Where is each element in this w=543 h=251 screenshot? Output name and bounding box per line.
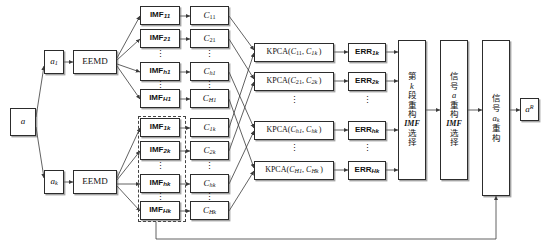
err-box-2k: ERR2k — [348, 72, 386, 91]
kpca-box-4: KPCA(CH1, CHk ) — [254, 161, 334, 180]
stage-box-signal-a-imf-selection: 信 号 a 重 构 IMF 选 择 — [440, 40, 468, 180]
c-h1-label: Ch1 — [203, 67, 215, 77]
c-box-2k: C2k — [190, 141, 229, 160]
err-ellipsis-1: ⋮ — [348, 97, 386, 104]
c-top-ellipsis-1: ⋮ — [190, 51, 229, 58]
eemd-box-top: EEMD — [73, 50, 117, 74]
imf-11-label: IMF11 — [150, 11, 170, 20]
err-box-1k: ERR1k — [348, 43, 386, 62]
stage-box-kth-segment-imf-selection: 第 k 段 重 构 IMF 选 择 — [398, 40, 426, 180]
err-1k-label: ERR1k — [355, 48, 379, 57]
imf-box-Hk: IMFHk — [140, 201, 180, 220]
output-signal-label: aR — [525, 104, 533, 114]
kpca-box-2: KPCA(C21, C2k ) — [254, 72, 334, 91]
stage-box-signal-ak-reconstruction: 信 号 ak 重 构 — [482, 40, 510, 196]
kpca-ellipsis: ⋮ — [254, 97, 334, 104]
imf-box-11: IMF11 — [140, 6, 180, 25]
stage1-label: 第 k 段 重 构 IMF 选 择 — [404, 72, 420, 148]
kpca-box-1: KPCA(C11, C1k ) — [254, 43, 334, 62]
imf-1k-label: IMF1k — [150, 123, 171, 132]
stage3-label: 信 号 ak 重 构 — [492, 93, 501, 143]
c-2k-label: C2k — [204, 146, 216, 156]
stage3-a: ak — [493, 113, 500, 123]
output-signal-box: aR — [520, 98, 539, 121]
c-H1-label: CH1 — [203, 94, 217, 104]
err-box-hk: ERRhk — [348, 121, 386, 140]
imf-box-21: IMF21 — [140, 29, 180, 48]
eemd-box-bottom: EEMD — [73, 170, 117, 194]
imf-hk-label: IMFhk — [149, 179, 170, 188]
c-box-21: C21 — [190, 29, 229, 48]
c-Hk-label: CHk — [203, 206, 216, 216]
imf-box-2k: IMF2k — [140, 141, 180, 160]
segment-box-a1: a1 — [44, 50, 64, 74]
c-box-hk: Chk — [190, 174, 229, 193]
imf-Hk-label: IMFHk — [149, 206, 171, 215]
segment-a1-label: a1 — [50, 57, 58, 67]
imf-box-hk: IMFhk — [140, 174, 180, 193]
imf-h1-label: IMFh1 — [149, 67, 170, 76]
c-bottom-ellipsis-1: ⋮ — [190, 163, 229, 170]
c-box-1k: C1k — [190, 118, 229, 137]
figure-canvas: a a1 ak EEMD EEMD IMF11 IMF21 ⋮ IMFh1 ⋮ … — [0, 0, 543, 251]
c-11-label: C11 — [204, 11, 216, 21]
c-hk-label: Chk — [204, 179, 216, 189]
stage2-label: 信 号 a 重 构 IMF 选 择 — [446, 72, 462, 148]
kpca-1-label: KPCA(C11, C1k ) — [267, 48, 322, 57]
c-1k-label: C1k — [204, 123, 216, 133]
err-2k-label: ERR2k — [355, 77, 379, 86]
kpca-2-label: KPCA(C21, C2k ) — [267, 77, 322, 86]
c-box-H1: CH1 — [190, 89, 229, 108]
imf-2k-label: IMF2k — [150, 146, 171, 155]
eemd-bottom-label: EEMD — [82, 177, 108, 186]
imf-H1-label: IMFH1 — [149, 94, 171, 103]
segment-ak-label: ak — [50, 177, 57, 187]
err-ellipsis-2: ⋮ — [348, 145, 386, 152]
err-Hk-label: ERRHk — [355, 166, 380, 175]
kpca-3-label: KPCA(Ch1, Chk ) — [267, 126, 322, 135]
c-21-label: C21 — [203, 34, 215, 44]
imf-box-h1: IMFh1 — [140, 62, 180, 81]
imf-box-1k: IMF1k — [140, 118, 180, 137]
imf-21-label: IMF21 — [150, 34, 171, 43]
kpca-ellipsis-2: ⋮ — [254, 145, 334, 152]
err-hk-label: ERRhk — [355, 126, 379, 135]
kpca-4-label: KPCA(CH1, CHk ) — [265, 166, 323, 175]
imf-box-H1: IMFH1 — [140, 89, 180, 108]
input-signal-label: a — [21, 117, 26, 126]
c-box-11: C11 — [190, 6, 229, 25]
eemd-top-label: EEMD — [82, 57, 108, 66]
input-signal-box: a — [10, 108, 36, 136]
err-box-Hk: ERRHk — [348, 161, 386, 180]
imf-top-ellipsis-1: ⋮ — [140, 51, 180, 58]
c-box-h1: Ch1 — [190, 62, 229, 81]
segment-box-ak: ak — [44, 170, 64, 194]
imf-bottom-ellipsis-1: ⋮ — [140, 163, 180, 170]
kpca-box-3: KPCA(Ch1, Chk ) — [254, 121, 334, 140]
c-box-Hk: CHk — [190, 201, 229, 220]
